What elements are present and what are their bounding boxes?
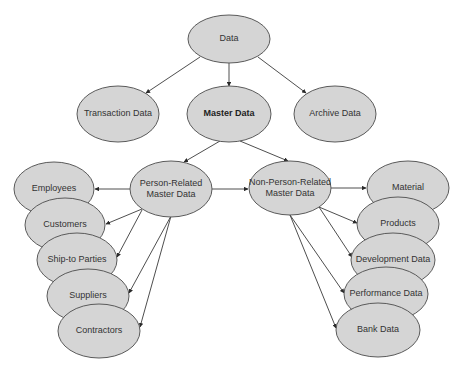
node-label: Data: [219, 33, 238, 43]
node-label: Products: [380, 218, 416, 228]
node-label: Development Data: [356, 254, 431, 264]
node-master: Master Data: [187, 86, 271, 142]
node-transaction: Transaction Data: [77, 86, 159, 142]
node-person: Person-RelatedMaster Data: [130, 161, 212, 217]
arrow-person-to-customers: [106, 209, 142, 224]
arrow-data-to-archive: [258, 57, 306, 93]
node-label: Non-Person-Related: [249, 177, 331, 187]
arrow-person-to-shipto: [117, 210, 142, 257]
node-nonperson: Non-Person-RelatedMaster Data: [249, 161, 331, 215]
node-label: Material: [392, 182, 424, 192]
node-archive: Archive Data: [294, 86, 376, 142]
node-label: Master Data: [265, 188, 314, 198]
master-data-hierarchy-diagram: DataTransaction DataMaster DataArchive D…: [0, 0, 464, 373]
arrow-person-to-suppliers: [129, 216, 171, 293]
node-label: Master Data: [146, 189, 195, 199]
node-label: Transaction Data: [84, 108, 152, 118]
nodes-layer: DataTransaction DataMaster DataArchive D…: [14, 15, 449, 358]
node-data: Data: [188, 15, 270, 63]
node-label: Master Data: [203, 108, 255, 118]
arrow-master-to-person: [184, 141, 220, 162]
node-label: Employees: [32, 183, 77, 193]
node-bank: Bank Data: [336, 303, 420, 357]
arrow-person-to-contractors: [140, 216, 171, 327]
node-contractors: Contractors: [58, 304, 140, 358]
node-label: Person-Related: [140, 178, 203, 188]
node-label: Performance Data: [349, 288, 422, 298]
arrow-data-to-transaction: [146, 57, 200, 93]
node-label: Ship-to Parties: [47, 254, 107, 264]
arrow-nonperson-to-development: [319, 207, 352, 257]
arrow-master-to-nonperson: [240, 141, 288, 161]
node-label: Customers: [43, 219, 87, 229]
node-label: Bank Data: [357, 324, 399, 334]
node-label: Suppliers: [69, 290, 107, 300]
node-label: Contractors: [76, 325, 123, 335]
node-label: Archive Data: [309, 108, 361, 118]
